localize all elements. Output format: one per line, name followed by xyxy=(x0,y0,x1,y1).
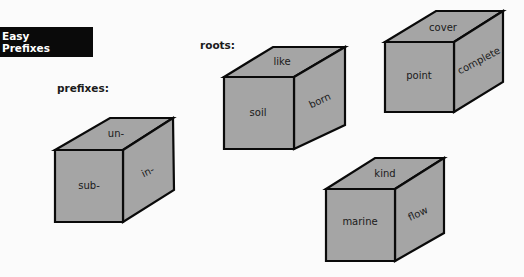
cube-top-text: cover xyxy=(429,22,458,33)
cube-front-text: point xyxy=(406,70,432,81)
cube-root-1[interactable]: like soil born xyxy=(224,47,345,149)
cube-root-3[interactable]: kind marine flow xyxy=(326,158,444,261)
cube-front-text: soil xyxy=(250,107,267,118)
cube-front-text: marine xyxy=(342,216,377,227)
cubes-canvas: un- sub- in- like soil born cover point … xyxy=(0,0,524,277)
cube-front-text: sub- xyxy=(78,180,100,191)
cube-top-text: kind xyxy=(374,168,395,179)
cube-prefixes[interactable]: un- sub- in- xyxy=(55,118,174,222)
cube-root-2[interactable]: cover point complete xyxy=(385,11,503,112)
cube-top-text: un- xyxy=(108,128,125,139)
cube-top-text: like xyxy=(273,56,290,67)
